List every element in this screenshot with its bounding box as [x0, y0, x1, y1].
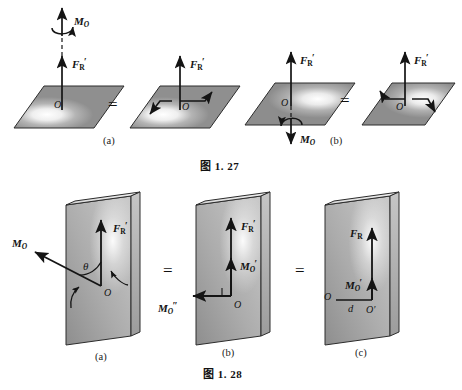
fig28-b-moment-out-plane-label: MO″ — [158, 301, 178, 316]
fig27-b-right-origin-label: O — [396, 102, 403, 112]
fig27-a-moment-label: MO — [74, 16, 89, 28]
fig27-a-left-force-label: FR′ — [72, 57, 87, 72]
fig27-a-equals-sign: = — [108, 96, 118, 113]
fig28-c-distance-label: d — [348, 304, 353, 315]
fig28-panel-c-diagram — [325, 192, 399, 345]
plane-surface — [245, 83, 355, 125]
fig28-panel-b-label: (b) — [222, 348, 234, 359]
fig28-a-origin-label: O — [104, 288, 111, 298]
fig28-c-offset-point-label: O′ — [366, 305, 375, 315]
plane-surface — [362, 83, 455, 125]
textbook-figure-page: MO FR′ O = FR′ O FR′ O MO = FR′ O (a) (b… — [0, 0, 462, 390]
fig28-panel-a-label: (a) — [95, 352, 107, 363]
fig28-caption: 图 1. 28 — [203, 369, 242, 380]
fig27-panel-a-label: (a) — [103, 136, 115, 147]
fig27-a-left-origin-label: O — [54, 100, 61, 110]
fig28-c-moment-label: MO′ — [345, 278, 362, 293]
fig28-panel-b-diagram — [193, 192, 270, 345]
fig27-panel-a-right-diagram — [130, 56, 240, 128]
slab-front-face-highlight — [66, 196, 131, 345]
fig27-caption: 图 1. 27 — [200, 161, 239, 172]
fig28-a-angle-label: θ — [83, 261, 88, 272]
figure-vector-canvas — [0, 0, 462, 390]
fig28-equals-sign-2: = — [295, 262, 305, 279]
slab-right-face — [131, 192, 140, 336]
fig28-b-origin-label: O — [234, 300, 241, 310]
fig27-b-left-origin-label: O — [281, 98, 288, 108]
fig27-b-moment-label: MO — [300, 134, 315, 146]
fig28-c-force-label: FR — [350, 228, 363, 240]
fig27-panel-b-label: (b) — [330, 136, 342, 147]
fig27-a-right-force-label: FR′ — [190, 57, 205, 72]
slab-right-face — [261, 192, 270, 336]
fig28-b-moment-in-plane-label: MO′ — [240, 259, 257, 274]
fig27-b-equals-sign: = — [340, 92, 350, 109]
fig28-b-force-label: FR′ — [241, 219, 256, 234]
fig28-a-moment-label: MO — [12, 238, 27, 250]
fig27-b-left-force-label: FR′ — [300, 53, 315, 68]
slab-front-face-highlight — [325, 196, 390, 345]
fig28-equals-sign-1: = — [163, 262, 173, 279]
fig27-b-right-force-label: FR′ — [414, 53, 429, 68]
fig27-panel-b-right-diagram — [362, 52, 455, 125]
fig28-panel-c-label: (c) — [355, 348, 367, 359]
fig27-a-right-origin-label: O — [182, 102, 189, 112]
fig28-c-origin-label: O — [324, 292, 331, 302]
fig28-a-force-label: FR′ — [113, 221, 128, 236]
slab-right-face — [390, 192, 399, 336]
